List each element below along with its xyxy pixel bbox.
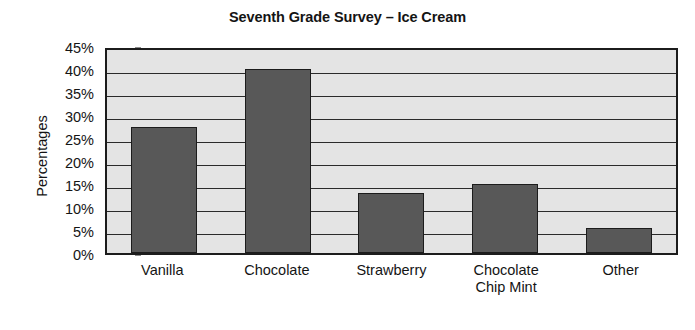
y-axis-tick-label: 40% xyxy=(36,64,94,79)
y-axis-tick-label: 20% xyxy=(36,156,94,171)
x-axis-tick-label: Vanilla xyxy=(105,262,220,296)
x-axis-tick-label: Other xyxy=(563,262,678,296)
y-axis-tick-label: 25% xyxy=(36,133,94,148)
y-axis-tick-label: 45% xyxy=(36,41,94,56)
bar xyxy=(245,69,311,253)
chart-title: Seventh Grade Survey – Ice Cream xyxy=(0,9,695,25)
bar xyxy=(131,127,197,254)
y-axis-tick-label: 15% xyxy=(36,179,94,194)
bars-layer xyxy=(107,50,676,253)
y-axis-tick-label: 5% xyxy=(36,225,94,240)
bar-chart: Seventh Grade Survey – Ice Cream Percent… xyxy=(0,0,695,330)
bar xyxy=(472,184,538,253)
y-axis-tick-label: 35% xyxy=(36,87,94,102)
bar xyxy=(358,193,424,253)
bar-slot xyxy=(562,50,676,253)
x-axis-tick-label: Strawberry xyxy=(334,262,449,296)
y-axis-tick-label: 30% xyxy=(36,110,94,125)
x-axis-tick-label: Chocolate Chip Mint xyxy=(449,262,564,296)
bar-slot xyxy=(221,50,335,253)
x-axis-tick-label: Chocolate xyxy=(220,262,335,296)
bar-slot xyxy=(107,50,221,253)
y-axis-tick-label: 0% xyxy=(36,248,94,263)
y-axis-tick-group: 0%5%10%15%20%25%30%35%40%45% xyxy=(36,48,94,255)
x-axis-tick-group: VanillaChocolateStrawberryChocolate Chip… xyxy=(105,262,678,296)
bar-slot xyxy=(335,50,449,253)
plot-area xyxy=(105,48,678,255)
bar-slot xyxy=(448,50,562,253)
y-axis-tick-label: 10% xyxy=(36,202,94,217)
bar xyxy=(586,228,652,253)
